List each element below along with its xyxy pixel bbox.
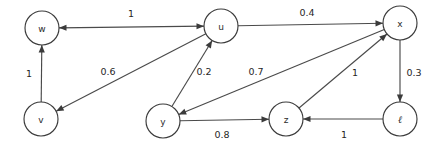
- edge-line-w-u: [59, 26, 204, 28]
- arrowhead-y-z-to-z: [261, 116, 269, 122]
- node-label-v: v: [38, 115, 44, 125]
- node-u[interactable]: u: [204, 9, 238, 43]
- node-y[interactable]: y: [146, 104, 180, 138]
- node-label-l: ℓ: [398, 114, 402, 125]
- edge-z-x: [299, 34, 387, 108]
- arrowhead-x-l-to-l: [397, 95, 403, 103]
- arrowhead-y-u-to-u: [206, 41, 213, 49]
- edge-w-u: [59, 23, 204, 31]
- edge-line-v-w: [41, 45, 42, 102]
- edge-weight-y-z: 0.8: [214, 129, 229, 140]
- arrowhead-u-x-to-x: [375, 20, 383, 26]
- arrowhead-x-y-to-y: [179, 109, 187, 115]
- arrowhead-v-w-to-w: [39, 45, 45, 53]
- edge-weight-l-z: 1: [341, 129, 347, 140]
- edge-x-l: [397, 40, 403, 102]
- edge-weight-w-u: 1: [128, 8, 134, 19]
- edge-weight-u-x: 0.4: [299, 7, 314, 18]
- node-label-w: w: [38, 24, 45, 34]
- edge-line-y-z: [180, 119, 269, 120]
- node-z[interactable]: z: [269, 102, 303, 136]
- edge-weight-y-u: 0.2: [196, 66, 211, 77]
- arrowhead-w-u-to-u: [196, 23, 204, 29]
- arrowhead-l-z-to-z: [303, 116, 311, 122]
- node-l[interactable]: ℓ: [383, 102, 417, 136]
- graph-svg-root: wuxvyzℓ 10.40.610.20.70.30.811: [0, 0, 440, 148]
- edge-y-z: [180, 116, 269, 122]
- edge-line-u-x: [238, 23, 383, 25]
- graph-diagram-canvas: wuxvyzℓ 10.40.610.20.70.30.811: [0, 0, 440, 148]
- edge-weight-u-v: 0.6: [100, 66, 115, 77]
- arrowhead-w-u-to-w: [59, 25, 67, 31]
- nodes-layer: wuxvyzℓ: [24, 6, 417, 138]
- edge-l-z: [303, 116, 383, 122]
- node-label-u: u: [218, 22, 224, 32]
- node-v[interactable]: v: [24, 102, 58, 136]
- edge-weight-x-l: 0.3: [406, 67, 421, 78]
- edge-v-w: [39, 45, 45, 102]
- edge-line-z-x: [299, 34, 387, 108]
- node-label-x: x: [397, 19, 403, 29]
- node-x[interactable]: x: [383, 6, 417, 40]
- node-w[interactable]: w: [25, 11, 59, 45]
- edge-weight-x-y: 0.7: [248, 66, 263, 77]
- node-label-z: z: [284, 115, 289, 125]
- edge-weight-z-x: 1: [352, 67, 358, 78]
- edge-u-x: [238, 20, 383, 26]
- edge-line-u-v: [56, 34, 206, 111]
- edge-u-v: [56, 34, 206, 111]
- node-label-y: y: [160, 117, 166, 127]
- edge-weight-v-w: 1: [26, 68, 32, 79]
